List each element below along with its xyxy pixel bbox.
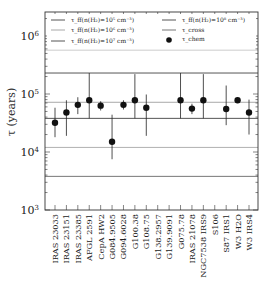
legend-marker [166, 37, 172, 43]
y-tick-label: 104 [21, 146, 40, 159]
legend-label: τ_chem [182, 35, 205, 43]
data-point [246, 109, 252, 115]
x-tick-label: G138.2957 [153, 214, 163, 260]
x-tick-label: CepA HW2 [96, 214, 106, 260]
x-tick-label: W3 H2O [233, 214, 243, 250]
data-point [97, 102, 103, 108]
data-point [52, 120, 58, 126]
legend-label: τ_cross [182, 26, 204, 34]
x-tick-label: S106 [210, 214, 220, 235]
y-tick-label: 103 [21, 204, 39, 217]
x-axis-ticks: IRAS 23033IRAS 23151IRAS 23385AFGL 2591C… [50, 12, 254, 278]
data-point [86, 97, 92, 103]
x-tick-label: IRAS 23151 [61, 214, 71, 264]
data-point [132, 97, 138, 103]
data-point [143, 105, 149, 111]
legend-label: τ_ff(n(H₂)=10⁵ cm⁻³) [71, 16, 134, 24]
x-tick-label: G094.6028 [118, 214, 128, 260]
x-tick-label: S87 IRS1 [221, 214, 231, 253]
data-point [109, 139, 115, 145]
x-tick-label: IRAS 23033 [50, 214, 60, 264]
x-tick-label: G139.9091 [164, 214, 174, 260]
legend-label: τ_ff(n(H₂)=10⁶ cm⁻³) [71, 26, 134, 34]
x-tick-label: IRAS 23385 [73, 214, 83, 264]
data-point [234, 97, 240, 103]
chart: 103104105106 IRAS 23033IRAS 23151IRAS 23… [0, 0, 273, 294]
data-point [120, 102, 126, 108]
x-tick-label: G075.78 [176, 214, 186, 249]
data-point [200, 97, 206, 103]
y-tick-label: 105 [21, 88, 39, 101]
x-tick-label: NGC7538 IRS9 [198, 214, 208, 278]
y-tick-label: 106 [21, 30, 40, 43]
legend: τ_ff(n(H₂)=10⁵ cm⁻³)τ_ff(n(H₂)=10⁶ cm⁻³)… [47, 14, 256, 47]
data-point [177, 97, 183, 103]
data-points [52, 73, 252, 159]
x-tick-label: G084.9505 [107, 214, 117, 260]
legend-label: τ_ff(n(H₂)=10⁷ cm⁻³) [71, 37, 134, 45]
x-tick-label: IRAS 21078 [187, 214, 197, 264]
x-tick-label: G108.75 [141, 214, 151, 249]
data-point [189, 105, 195, 111]
data-point [75, 102, 81, 108]
data-point [63, 109, 69, 115]
x-tick-label: W3 IRS4 [244, 214, 254, 250]
data-point [223, 106, 229, 112]
x-tick-label: AFGL 2591 [84, 214, 94, 262]
x-tick-label: G100.38 [130, 214, 140, 249]
legend-label: τ_ff(n(H₂)=10⁸ cm⁻³) [182, 16, 245, 24]
y-axis-ticks: 103104105106 [21, 19, 258, 217]
y-axis-label: τ (years) [5, 88, 18, 136]
